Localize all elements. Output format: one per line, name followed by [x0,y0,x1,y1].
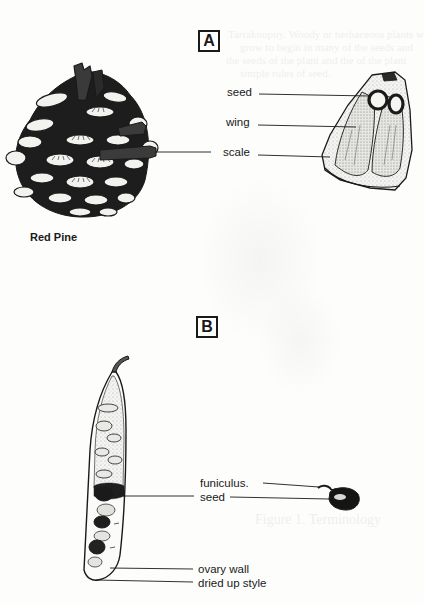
seed-scale-illustration [322,72,412,190]
diagram-page: Tarraknopuy. Woody or herbaceous plants … [0,0,424,603]
pointer-lines-panel-b [96,483,329,582]
pine-cone-illustration [6,63,158,217]
seed-with-funiculus-illustration [318,486,359,510]
illustration-layer [0,0,424,603]
legume-pod-illustration [84,356,129,580]
